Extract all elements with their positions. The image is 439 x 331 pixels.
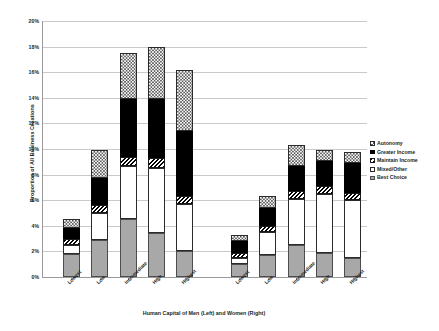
legend-swatch-icon bbox=[370, 141, 375, 146]
legend-swatch-icon bbox=[370, 167, 375, 172]
y-axis-tick-label: 6% bbox=[32, 197, 40, 203]
x-axis-title: Human Capital of Men (Left) and Women (R… bbox=[42, 310, 366, 316]
chart-figure: Proportion of All Business Creations 0%2… bbox=[0, 0, 439, 331]
bar-segment bbox=[63, 219, 80, 228]
bar-segment bbox=[120, 166, 137, 220]
bar-segment bbox=[63, 245, 80, 254]
legend-label: Maintain Income bbox=[377, 158, 418, 163]
legend-label: Best Choice bbox=[377, 175, 407, 180]
bar-segment bbox=[120, 99, 137, 157]
gridline bbox=[43, 98, 367, 99]
bar-column[interactable] bbox=[148, 47, 165, 277]
bar-column[interactable] bbox=[316, 150, 333, 277]
bar-segment bbox=[176, 70, 193, 131]
bar-column[interactable] bbox=[288, 145, 305, 277]
gridline bbox=[43, 21, 367, 22]
gridline bbox=[43, 47, 367, 48]
bar-segment bbox=[148, 233, 165, 277]
bar-column[interactable] bbox=[91, 150, 108, 277]
bar-segment bbox=[344, 152, 361, 164]
y-axis-tick-label: 14% bbox=[29, 95, 39, 101]
bar-segment bbox=[120, 157, 137, 166]
bar-segment bbox=[288, 191, 305, 199]
bar-segment bbox=[91, 178, 108, 205]
y-axis-tick-label: 12% bbox=[29, 120, 39, 126]
bar-column[interactable] bbox=[176, 70, 193, 277]
bar-segment bbox=[316, 194, 333, 253]
legend-item[interactable]: Maintain Income bbox=[370, 158, 418, 163]
bar-segment bbox=[288, 145, 305, 165]
bar-segment bbox=[91, 240, 108, 277]
bar-segment bbox=[148, 168, 165, 233]
bar-segment bbox=[259, 255, 276, 277]
y-axis-tick-label: 20% bbox=[29, 18, 39, 24]
legend-item[interactable]: Mixed/Other bbox=[370, 167, 418, 172]
bar-segment bbox=[91, 150, 108, 178]
bar-segment bbox=[288, 166, 305, 192]
chart-legend: AutonomyGreater IncomeMaintain IncomeMix… bbox=[370, 141, 418, 181]
legend-swatch-icon bbox=[370, 158, 375, 163]
gridline bbox=[43, 72, 367, 73]
legend-label: Autonomy bbox=[377, 141, 403, 146]
legend-item[interactable]: Autonomy bbox=[370, 141, 418, 146]
y-axis-tick-label: 18% bbox=[29, 44, 39, 50]
gridline bbox=[43, 123, 367, 124]
bar-segment bbox=[316, 253, 333, 277]
y-axis-tick-label: 10% bbox=[29, 146, 39, 152]
bar-segment bbox=[91, 205, 108, 213]
bar-segment bbox=[288, 199, 305, 245]
bar-segment bbox=[120, 53, 137, 99]
bar-segment bbox=[176, 204, 193, 251]
y-axis-title: Proportion of All Business Creations bbox=[29, 63, 35, 243]
y-axis-tick-label: 16% bbox=[29, 69, 39, 75]
bar-column[interactable] bbox=[259, 196, 276, 277]
legend-swatch-icon bbox=[370, 176, 375, 181]
legend-swatch-icon bbox=[370, 150, 375, 155]
y-axis-tick-label: 0% bbox=[32, 274, 40, 280]
bar-segment bbox=[259, 232, 276, 255]
legend-label: Greater Income bbox=[377, 150, 415, 155]
y-axis-tick-label: 2% bbox=[32, 248, 40, 254]
bar-segment bbox=[259, 196, 276, 208]
bar-segment bbox=[91, 213, 108, 240]
bar-segment bbox=[344, 163, 361, 192]
bar-segment bbox=[148, 99, 165, 158]
bar-segment bbox=[148, 158, 165, 168]
bar-segment bbox=[316, 186, 333, 194]
bar-segment bbox=[344, 200, 361, 258]
bar-column[interactable] bbox=[120, 53, 137, 277]
bar-column[interactable] bbox=[344, 152, 361, 277]
y-axis-tick-label: 4% bbox=[32, 223, 40, 229]
legend-item[interactable]: Best Choice bbox=[370, 175, 418, 180]
bar-segment bbox=[176, 196, 193, 204]
bar-segment bbox=[63, 228, 80, 238]
bar-segment bbox=[231, 241, 248, 253]
y-axis-tick-label: 8% bbox=[32, 172, 40, 178]
bar-segment bbox=[316, 150, 333, 160]
legend-item[interactable]: Greater Income bbox=[370, 150, 418, 155]
bar-segment bbox=[259, 208, 276, 226]
legend-label: Mixed/Other bbox=[377, 167, 407, 172]
bar-segment bbox=[344, 193, 361, 201]
bar-segment bbox=[176, 131, 193, 196]
bar-segment bbox=[316, 161, 333, 187]
bar-segment bbox=[148, 47, 165, 99]
plot-area: 0%2%4%6%8%10%12%14%16%18%20%LowestLowInt… bbox=[42, 21, 367, 278]
